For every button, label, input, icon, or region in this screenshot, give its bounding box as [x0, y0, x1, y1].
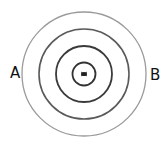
label-a: A: [10, 66, 20, 81]
concentric-circles-diagram: [0, 0, 165, 147]
label-b: B: [150, 68, 160, 83]
